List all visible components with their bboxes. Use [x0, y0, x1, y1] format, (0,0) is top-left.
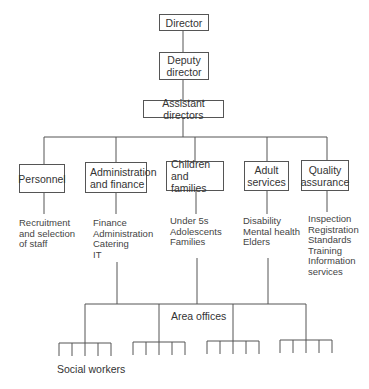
list-item: Under 5s [170, 216, 222, 227]
dept-quality-title-2: assurance [301, 176, 349, 188]
adult-items: Disability Mental health Elders [243, 216, 300, 248]
list-item: Catering [93, 239, 153, 250]
list-item: Inspection [308, 214, 359, 225]
dept-adult-services-box: Adult services [244, 161, 289, 191]
dept-quality-assurance-box: Quality assurance [301, 160, 349, 191]
dept-adult-title-1: Adult [247, 164, 286, 176]
dept-children-families-box: Children and families [166, 161, 224, 191]
deputy-director-label: Deputy director [164, 54, 204, 78]
dept-children-title-1: Children and [171, 158, 223, 182]
dept-quality-title-1: Quality [301, 164, 349, 176]
list-item: services [308, 267, 359, 278]
admin-items: Finance Administration Catering IT [93, 218, 153, 260]
deputy-director-box: Deputy director [159, 52, 209, 80]
list-item: Families [170, 237, 222, 248]
assistant-directors-box: Assistant directors [143, 100, 224, 118]
list-item: Finance [93, 218, 153, 229]
personnel-items: Recruitment and selection of staff [19, 218, 75, 250]
director-box: Director [159, 14, 209, 31]
list-item: Recruitment [19, 218, 75, 229]
dept-adult-title-2: services [247, 176, 286, 188]
dept-admin-title-2: and finance [90, 178, 157, 190]
assistant-directors-label: Assistant directors [144, 97, 223, 121]
quality-items: Inspection Registration Standards Traini… [308, 214, 359, 277]
list-item: Disability [243, 216, 300, 227]
dept-admin-title-1: Administration [90, 166, 157, 178]
list-item: Information [308, 256, 359, 267]
director-label: Director [166, 17, 203, 29]
list-item: Standards [308, 235, 359, 246]
dept-personnel-title: Personnel [18, 173, 65, 185]
list-item: IT [93, 250, 153, 261]
social-workers-label: Social workers [57, 363, 125, 375]
children-items: Under 5s Adolescents Families [170, 216, 222, 248]
list-item: Elders [243, 237, 300, 248]
dept-children-title-2: families [171, 182, 223, 194]
list-item: of staff [19, 239, 75, 250]
dept-personnel-box: Personnel [19, 164, 65, 193]
dept-admin-finance-box: Administration and finance [85, 162, 147, 193]
area-offices-label: Area offices [171, 310, 226, 322]
